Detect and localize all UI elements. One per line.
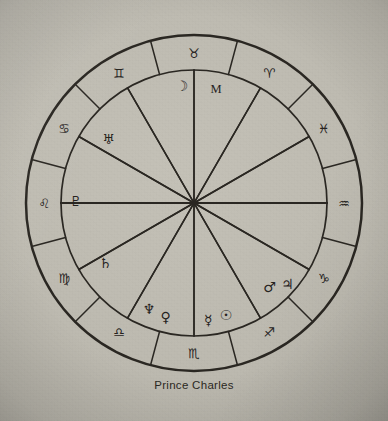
zodiac-sign-aries: ♈ — [263, 66, 275, 81]
planet-midheaven: M — [211, 82, 222, 96]
zodiac-sign-libra: ♎ — [113, 325, 125, 340]
sign-divider — [228, 331, 237, 365]
zodiac-sign-pisces: ♓ — [318, 121, 330, 136]
planet-neptune: ♆ — [143, 301, 156, 317]
zodiac-sign-leo: ♌ — [38, 196, 50, 211]
sign-divider — [228, 41, 237, 75]
sign-divider — [151, 331, 160, 365]
sign-divider — [32, 160, 66, 169]
zodiac-sign-aquarius: ♒ — [338, 196, 350, 211]
zodiac-sign-sagittarius: ♐ — [263, 325, 275, 340]
planet-jupiter: ♃ — [281, 276, 294, 292]
chart-wheel-svg: ♈♓♒♑♐♏♎♍♌♋♊♉ ☽M♅♇♄♆♀☿☉♂♃ — [0, 0, 388, 421]
sign-divider — [75, 297, 100, 322]
zodiac-sign-scorpio: ♏ — [188, 346, 200, 361]
planet-saturn: ♄ — [99, 255, 112, 271]
planet-mars: ♂ — [263, 279, 276, 295]
planet-mercury: ☿ — [204, 312, 213, 328]
planet-uranus: ♅ — [102, 131, 115, 147]
sign-divider — [288, 297, 313, 322]
sign-divider — [32, 237, 66, 246]
zodiac-sign-taurus: ♉ — [188, 46, 200, 61]
sign-divider — [322, 237, 356, 246]
planet-venus: ♀ — [161, 309, 171, 325]
planet-pluto: ♇ — [70, 193, 83, 209]
zodiac-sign-virgo: ♍ — [58, 271, 70, 286]
astrology-chart: ♈♓♒♑♐♏♎♍♌♋♊♉ ☽M♅♇♄♆♀☿☉♂♃ — [0, 0, 388, 421]
sign-divider — [322, 160, 356, 169]
planet-moon: ☽ — [175, 78, 188, 94]
sign-divider — [75, 84, 100, 109]
zodiac-sign-cancer: ♋ — [58, 121, 70, 136]
sign-divider — [288, 84, 313, 109]
zodiac-sign-gemini: ♊ — [113, 66, 125, 81]
zodiac-sign-capricorn: ♑ — [318, 271, 330, 286]
chart-caption: Prince Charles — [0, 379, 388, 391]
planet-sun: ☉ — [220, 307, 233, 323]
sign-divider — [151, 41, 160, 75]
house-spoke-lines — [61, 70, 327, 336]
